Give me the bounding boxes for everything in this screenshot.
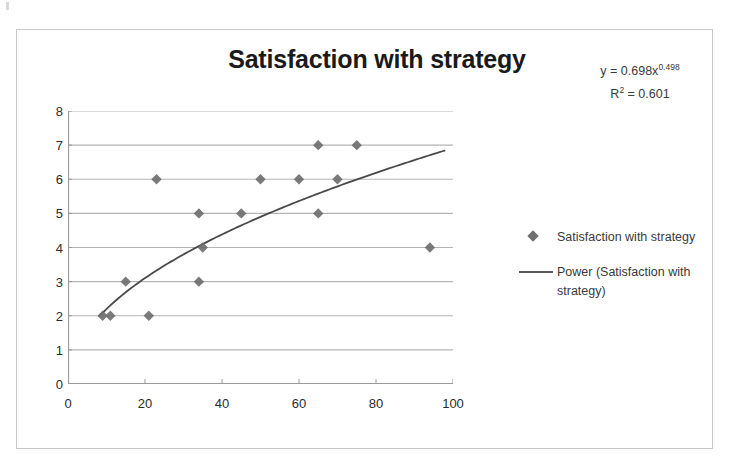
r-squared-value: = 0.601 bbox=[624, 87, 670, 101]
y-axis-tick-label: 5 bbox=[33, 206, 63, 221]
x-axis-tick-labels: 020406080100 bbox=[68, 396, 453, 416]
chart-legend: Satisfaction with strategy Power (Satisf… bbox=[517, 228, 707, 317]
chart-container: Satisfaction with strategy y = 0.698x0.4… bbox=[16, 29, 713, 449]
y-axis-tick-label: 6 bbox=[33, 172, 63, 187]
data-point-diamond bbox=[198, 242, 208, 252]
legend-key-diamond bbox=[517, 228, 557, 245]
x-axis-tick-label: 20 bbox=[138, 396, 152, 411]
data-point-diamond bbox=[144, 311, 154, 321]
data-point-diamond bbox=[255, 174, 265, 184]
scatter-plot-svg bbox=[68, 111, 453, 384]
x-axis-tick-label: 40 bbox=[215, 396, 229, 411]
data-point-diamond bbox=[332, 174, 342, 184]
equation-exponent: 0.498 bbox=[658, 62, 679, 72]
x-axis-tick-label: 80 bbox=[369, 396, 383, 411]
x-axis-tick-label: 100 bbox=[442, 396, 464, 411]
legend-entry-series: Satisfaction with strategy bbox=[517, 228, 707, 247]
x-axis-tick-label: 0 bbox=[64, 396, 71, 411]
legend-entry-trendline: Power (Satisfaction with strategy) bbox=[517, 263, 707, 301]
y-axis-tick-label: 3 bbox=[33, 274, 63, 289]
y-axis-tick-label: 8 bbox=[33, 104, 63, 119]
data-point-diamond bbox=[121, 276, 131, 286]
equation-text: y = 0.698x bbox=[600, 64, 658, 78]
data-point-diamond bbox=[294, 174, 304, 184]
trendline-path bbox=[99, 150, 446, 317]
y-axis-tick-label: 7 bbox=[33, 138, 63, 153]
data-point-diamond bbox=[194, 276, 204, 286]
data-point-diamond bbox=[236, 208, 246, 218]
scan-artifact bbox=[6, 2, 9, 10]
data-point-diamond bbox=[425, 242, 435, 252]
y-axis-tick-labels: 012345678 bbox=[33, 103, 63, 392]
data-point-diamond bbox=[194, 208, 204, 218]
legend-label-series: Satisfaction with strategy bbox=[557, 228, 695, 247]
plot-area bbox=[68, 111, 453, 384]
trendline-equation-annotation: y = 0.698x0.498 R2 = 0.601 bbox=[565, 58, 715, 104]
equation-line: y = 0.698x0.498 bbox=[565, 58, 715, 81]
data-point-diamond bbox=[105, 311, 115, 321]
legend-label-trendline: Power (Satisfaction with strategy) bbox=[557, 263, 707, 301]
diamond-marker-icon bbox=[527, 230, 538, 241]
y-axis-tick-label: 2 bbox=[33, 308, 63, 323]
r-squared-line: R2 = 0.601 bbox=[565, 81, 715, 104]
x-axis-tick-label: 60 bbox=[292, 396, 306, 411]
chart-title: Satisfaction with strategy bbox=[187, 45, 567, 74]
data-point-diamond bbox=[151, 174, 161, 184]
data-point-diamond bbox=[313, 140, 323, 150]
y-axis-tick-label: 4 bbox=[33, 240, 63, 255]
line-marker-icon bbox=[519, 271, 553, 273]
y-axis-tick-label: 0 bbox=[33, 377, 63, 392]
legend-key-line bbox=[517, 263, 557, 280]
data-point-diamond bbox=[313, 208, 323, 218]
data-point-diamond bbox=[352, 140, 362, 150]
y-axis-tick-label: 1 bbox=[33, 342, 63, 357]
